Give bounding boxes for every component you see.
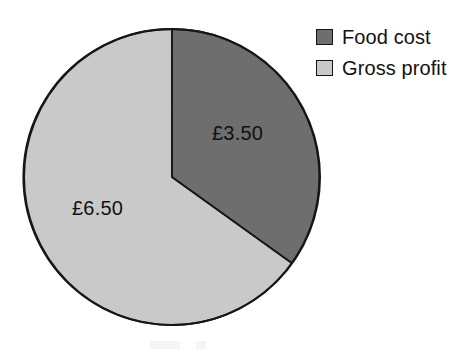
legend-swatch-food-cost: [316, 29, 333, 45]
scan-artifact: [196, 341, 206, 349]
legend-swatch-gross-profit: [316, 60, 333, 76]
slice-value-label-gross-profit: £6.50: [72, 197, 123, 220]
slice-value-label-food-cost: £3.50: [212, 122, 263, 145]
legend-item-food-cost[interactable]: Food cost: [316, 26, 447, 48]
legend-item-gross-profit[interactable]: Gross profit: [316, 57, 447, 79]
legend-label-food-cost: Food cost: [342, 27, 431, 47]
pie-chart-page: £3.50 £6.50 Food cost Gross profit: [0, 0, 475, 353]
scan-artifact: [150, 341, 180, 349]
legend-label-gross-profit: Gross profit: [342, 58, 447, 78]
chart-legend: Food cost Gross profit: [316, 26, 447, 79]
